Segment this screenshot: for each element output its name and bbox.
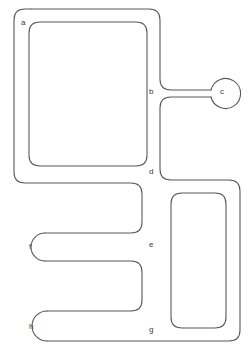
- chamber-a-inner-island: [29, 22, 147, 166]
- bulb-f-circle: [31, 233, 45, 261]
- label-b: b: [149, 88, 154, 96]
- channel-outline-h-return: [45, 261, 142, 311]
- bulb-h-circle: [32, 311, 47, 341]
- label-a: a: [21, 19, 26, 27]
- channel-outline-upper: [31, 9, 211, 90]
- label-e: e: [149, 241, 154, 249]
- label-h: h: [29, 323, 34, 331]
- channel-network-svg: [0, 0, 251, 357]
- chamber-g-inner-island: [171, 193, 226, 328]
- bulb-c-circle: [211, 78, 241, 108]
- label-d: d: [149, 168, 154, 176]
- label-g: g: [149, 326, 154, 334]
- channel-outline-c-return: [47, 97, 240, 341]
- label-c: c: [220, 88, 224, 96]
- channel-outline-f-return: [14, 9, 142, 233]
- channel-diagram-figure: a b c d e f g h: [0, 0, 251, 357]
- label-f: f: [29, 243, 31, 251]
